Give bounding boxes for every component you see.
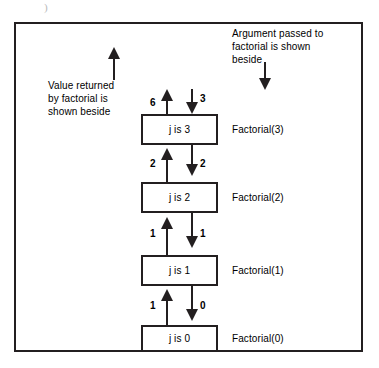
return-value-label-0: 6 — [150, 97, 156, 108]
stack-frame-box-0: j is 3 — [141, 114, 218, 145]
call-label-2: Factorial(1) — [232, 265, 284, 276]
down-arrow-icon — [186, 102, 198, 114]
argument-label-1: 2 — [200, 158, 206, 169]
argument-passed-note-line-2: factorial is shown — [232, 40, 323, 53]
argument-label-2: 1 — [200, 228, 206, 239]
up-arrow-icon — [161, 289, 173, 301]
up-arrow-icon — [108, 47, 120, 59]
factorial-recursion-diagram: ) Value returned by factorial is shown b… — [0, 0, 379, 368]
value-returned-note-line-2: by factorial is — [48, 92, 114, 105]
call-label-1: Factorial(2) — [232, 192, 284, 203]
argument-arrow-stem-3 — [191, 286, 193, 310]
argument-passed-note-line-3: beside — [232, 53, 323, 66]
return-value-label-1: 2 — [150, 158, 156, 169]
value-returned-note-line-1: Value returned — [48, 79, 114, 92]
return-arrow-stem-3 — [166, 300, 168, 326]
return-value-label-2: 1 — [150, 228, 156, 239]
argument-arrow-stem-2 — [191, 213, 193, 237]
return-arrow-stem-1 — [166, 159, 168, 183]
up-arrow-icon — [161, 217, 173, 229]
call-label-3: Factorial(0) — [232, 333, 284, 344]
up-arrow-icon — [161, 89, 173, 101]
value-returned-note: Value returned by factorial is shown bes… — [48, 79, 114, 118]
stack-frame-box-text-0: j is 3 — [169, 124, 190, 135]
return-arrow-stem-2 — [166, 228, 168, 256]
value-returned-note-arrow-stem — [113, 58, 115, 80]
call-label-0: Factorial(3) — [232, 124, 284, 135]
argument-arrow-stem-0 — [191, 89, 193, 103]
argument-label-3: 0 — [200, 300, 206, 311]
down-arrow-icon — [186, 164, 198, 176]
stack-frame-box-text-3: j is 0 — [169, 333, 190, 344]
argument-passed-note: Argument passed to factorial is shown be… — [232, 27, 323, 66]
down-arrow-icon — [186, 236, 198, 248]
value-returned-note-line-3: shown beside — [48, 105, 114, 118]
argument-arrow-stem-1 — [191, 145, 193, 165]
up-arrow-icon — [161, 148, 173, 160]
argument-passed-note-line-1: Argument passed to — [232, 27, 323, 40]
stack-frame-box-text-1: j is 2 — [169, 192, 190, 203]
down-arrow-icon — [186, 309, 198, 321]
stack-frame-box-3: j is 0 — [141, 325, 218, 352]
return-value-label-3: 1 — [150, 300, 156, 311]
stack-frame-box-2: j is 1 — [141, 255, 218, 286]
stack-frame-box-1: j is 2 — [141, 182, 218, 213]
scan-artifact-mark: ) — [44, 3, 48, 12]
argument-label-0: 3 — [200, 93, 206, 104]
down-arrow-icon — [259, 78, 271, 90]
stack-frame-box-text-2: j is 1 — [169, 265, 190, 276]
